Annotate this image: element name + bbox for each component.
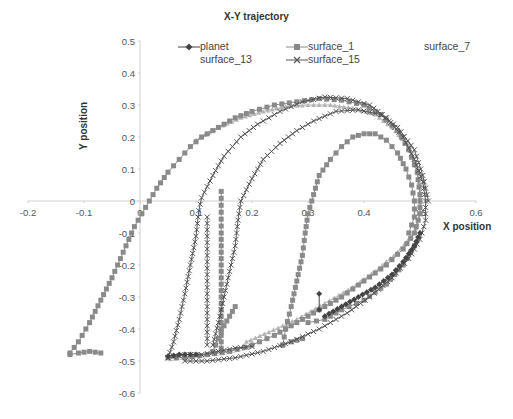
y-tick-label: -0.4 [119, 324, 135, 335]
legend-item-surface-15: surface_15 [286, 53, 360, 65]
legend-item-surface-13: surface_13 [200, 53, 252, 65]
y-tick-label: -0.3 [119, 292, 135, 303]
legend-item-surface-1: surface_1 [286, 40, 354, 52]
y-tick-label: -0.5 [119, 356, 135, 367]
y-tick-label: -0.6 [119, 388, 135, 399]
y-tick-label: -0.2 [119, 260, 135, 271]
x-tick-label: 0.2 [245, 207, 258, 218]
x-tick-label: -0.2 [20, 207, 36, 218]
y-tick-label: 0.1 [122, 164, 135, 175]
y-tick-label: 0.3 [122, 100, 135, 111]
legend: planet surface_1 surface_7 surface_13 su… [0, 0, 513, 80]
y-axis-label: Y position [78, 102, 89, 150]
legend-item-planet: planet [178, 40, 229, 52]
diamond-marker-icon [178, 42, 200, 52]
x-tick-label: 0.6 [469, 207, 482, 218]
y-tick-label: 0.2 [122, 132, 135, 143]
x-tick-label: -0.1 [76, 207, 92, 218]
x-axis-label: X position [443, 221, 491, 232]
x-tick-label: 0.4 [357, 207, 370, 218]
legend-item-surface-7: surface_7 [424, 40, 470, 52]
square-marker-icon [286, 42, 308, 52]
x-marker-icon [286, 55, 308, 65]
y-tick-label: 0 [130, 196, 135, 207]
